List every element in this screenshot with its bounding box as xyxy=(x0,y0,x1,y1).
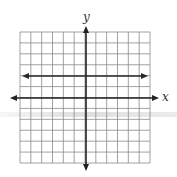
x-axis-left-arrow-icon xyxy=(10,95,17,101)
y-axis-label: y xyxy=(83,11,90,23)
y-axis-up-arrow-icon xyxy=(83,26,89,33)
line-left-arrow-icon xyxy=(22,73,29,79)
axes xyxy=(10,26,159,171)
coordinate-plane-figure: y x xyxy=(0,0,177,177)
x-axis-right-arrow-icon xyxy=(152,95,159,101)
line-right-arrow-icon xyxy=(141,73,148,79)
y-axis-down-arrow-icon xyxy=(83,164,89,171)
x-axis-label: x xyxy=(162,91,169,103)
coordinate-plane xyxy=(0,0,177,177)
